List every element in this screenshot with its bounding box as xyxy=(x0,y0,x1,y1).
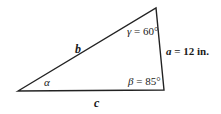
side-a-label: a = 12 in. xyxy=(166,46,209,57)
angle-alpha-label: α xyxy=(44,77,50,88)
triangle-shape xyxy=(0,0,221,114)
side-c-label: c xyxy=(94,97,99,109)
triangle-diagram: b c a = 12 in. α β = 85° γ = 60° xyxy=(0,0,221,114)
angle-beta-label: β = 85° xyxy=(128,76,161,87)
angle-gamma-label: γ = 60° xyxy=(127,26,158,37)
side-b-label: b xyxy=(75,43,81,55)
